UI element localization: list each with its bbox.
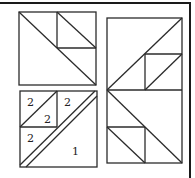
label-2-a: 2 <box>27 96 34 109</box>
label-2-b: 2 <box>44 113 51 126</box>
right-block <box>107 18 182 163</box>
label-2-c: 2 <box>64 96 71 109</box>
bottom-left-block: 2 2 2 2 1 <box>20 91 97 167</box>
quilt-diagram: 2 2 2 2 1 <box>0 0 195 178</box>
top-inner-diagonal <box>145 54 182 90</box>
top-left-block <box>19 12 96 85</box>
inner-diagonal <box>57 12 96 48</box>
label-1: 1 <box>72 145 79 158</box>
label-2-d: 2 <box>27 132 34 145</box>
seam-line-inner <box>26 96 97 167</box>
small-diagonal <box>20 91 57 127</box>
bottom-inner-diagonal <box>107 127 145 163</box>
